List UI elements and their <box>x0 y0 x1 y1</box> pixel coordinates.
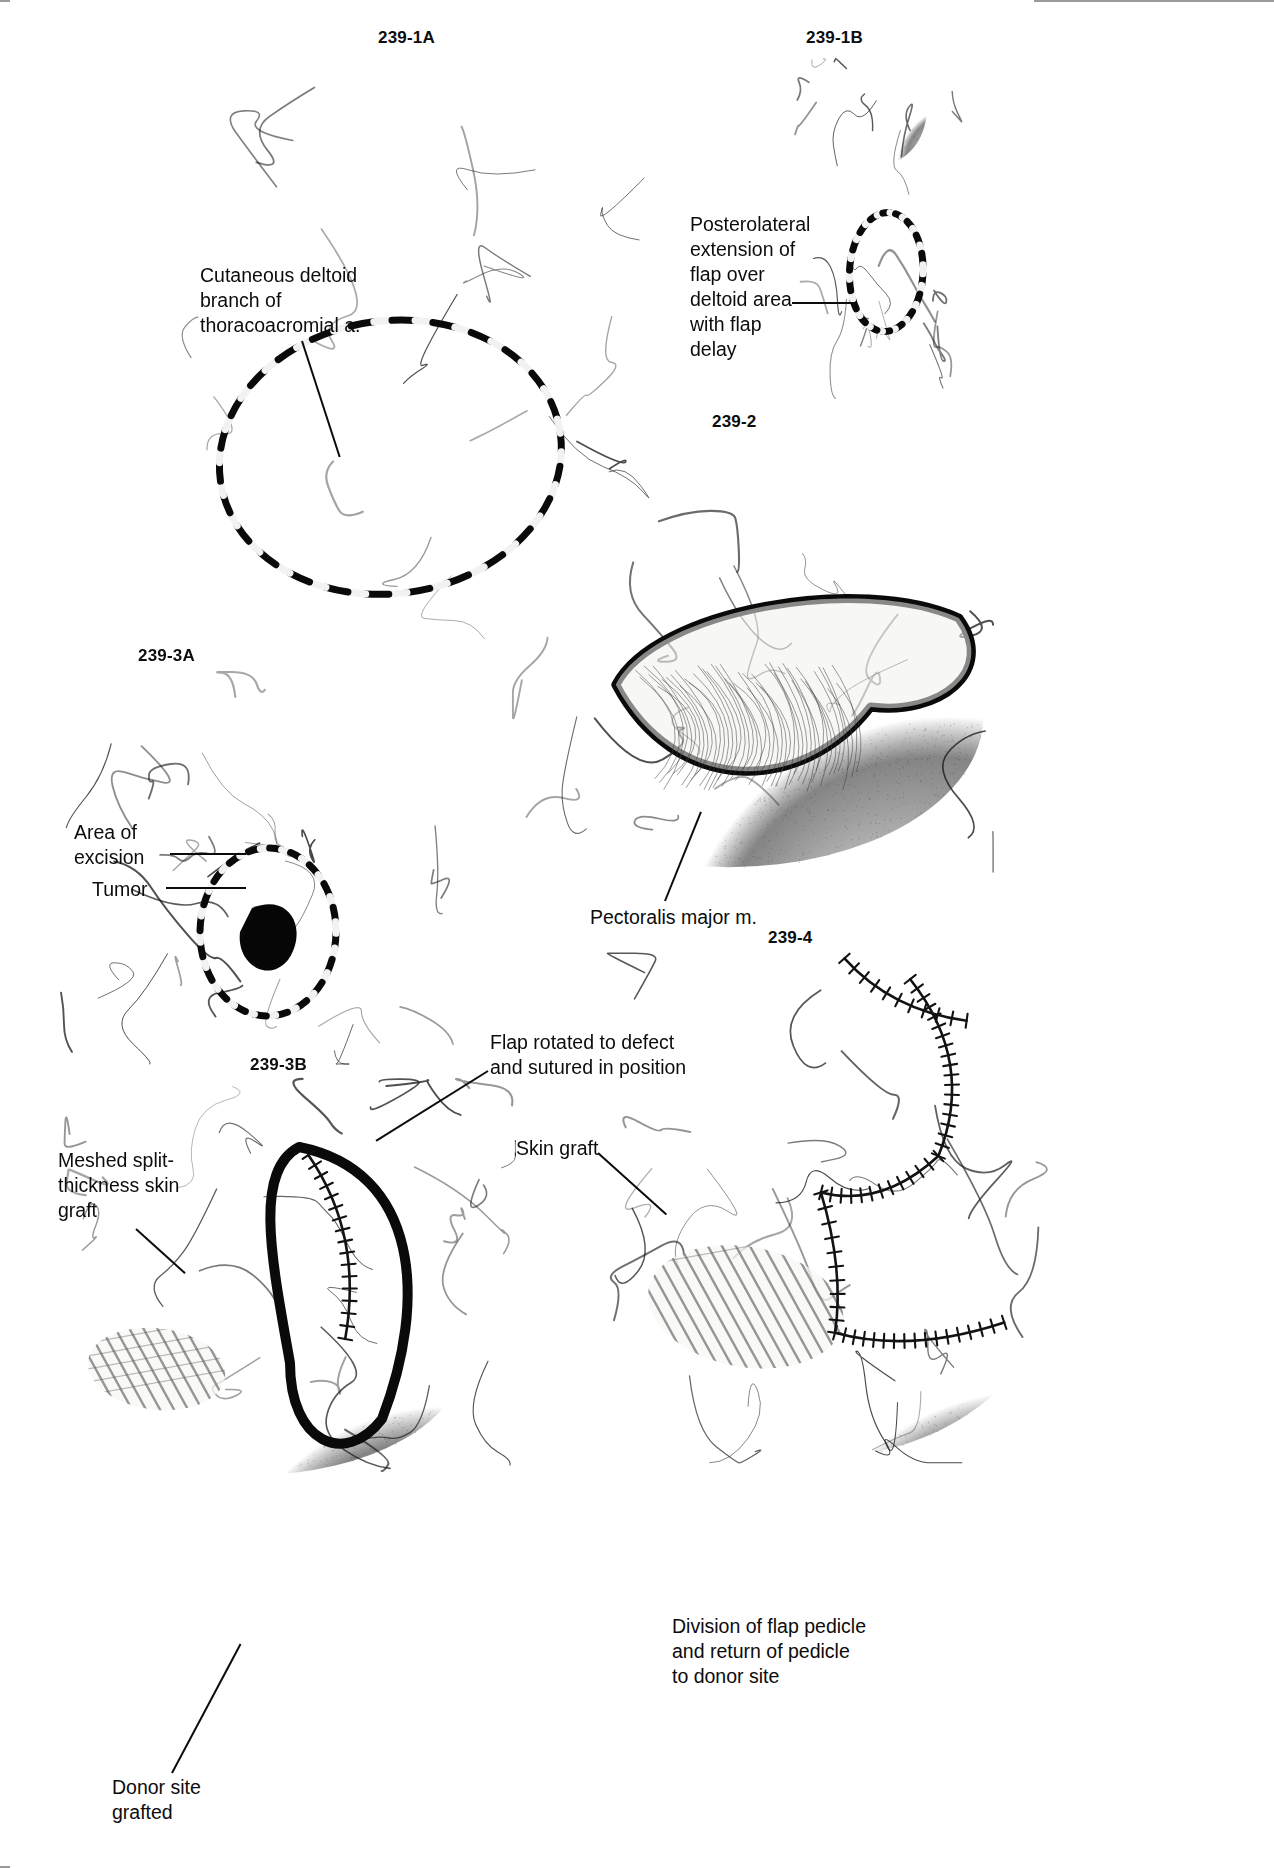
label-donor-site-grafted: Donor site grafted <box>112 1775 262 1825</box>
trim-mark-top-left <box>0 0 10 2</box>
panel-number-239-1a: 239-1A <box>378 28 435 48</box>
label-pectoralis-major-muscle: Pectoralis major m. <box>590 905 820 930</box>
illustration-canvas-239-4 <box>600 948 1070 1468</box>
label-area-of-excision: Area of excision <box>74 820 184 870</box>
illustration-239-2 <box>508 440 998 885</box>
panel-number-239-3b: 239-3B <box>250 1055 307 1075</box>
panel-number-239-4: 239-4 <box>768 928 812 948</box>
illustration-239-4 <box>600 948 1070 1468</box>
leader-line-area-of-excision <box>170 853 246 855</box>
leader-line-tumor <box>166 887 246 889</box>
panel-number-239-1b: 239-1B <box>806 28 863 48</box>
label-tumor: Tumor <box>92 877 182 902</box>
label-cutaneous-deltoid-branch: Cutaneous deltoid branch of thoracoacrom… <box>200 263 440 338</box>
illustration-239-3b <box>60 1075 520 1475</box>
label-flap-rotated-to-defect: Flap rotated to defect and sutured in po… <box>490 1030 760 1080</box>
panel-number-239-3a: 239-3A <box>138 646 195 666</box>
leader-line-posterolateral-extension <box>792 302 856 304</box>
label-division-of-flap-pedicle: Division of flap pedicle and return of p… <box>672 1614 962 1689</box>
label-skin-graft: Skin graft <box>516 1136 646 1161</box>
atlas-plate-page: 239-1A239-1B239-2239-3A239-3B239-4 Cutan… <box>0 0 1274 1868</box>
panel-number-239-2: 239-2 <box>712 412 756 432</box>
illustration-canvas-239-3b <box>60 1075 520 1475</box>
label-meshed-split-thickness-skin-graft: Meshed split- thickness skin graft <box>58 1148 208 1223</box>
leader-line-donor-site-grafted <box>171 1644 241 1774</box>
label-posterolateral-extension: Posterolateral extension of flap over de… <box>690 212 840 362</box>
trim-mark-top-right <box>1034 0 1274 2</box>
illustration-canvas-239-2 <box>508 440 998 885</box>
